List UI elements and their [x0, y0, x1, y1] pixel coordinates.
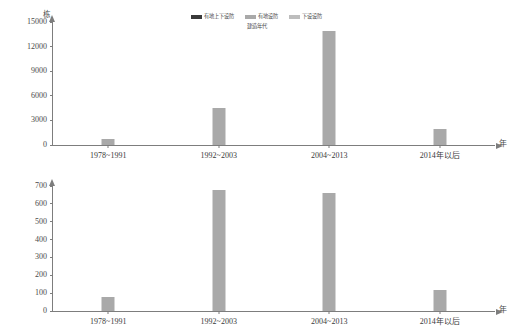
legend-item-2: 下设设防 [289, 13, 322, 20]
legend-label-0: 有地上下设防 [204, 13, 233, 20]
y-tick-label: 600 [35, 198, 47, 209]
x-tick-label: 1992~2003 [201, 316, 237, 327]
bar-bottom-2[interactable] [323, 193, 336, 311]
bar-top-2[interactable] [323, 31, 336, 145]
category-slot-1-bottom: 1992~2003 [164, 186, 275, 311]
y-tick-label: 500 [35, 216, 47, 227]
bar-bottom-0[interactable] [102, 297, 115, 311]
x-tick-label: 2004~2013 [311, 316, 347, 327]
category-slot-3-top: 2014年以后 [385, 22, 496, 145]
figure-page: 栋 有地上下设防 有地设防 下设设防 建造年代 15000 [0, 0, 513, 334]
category-slot-0-top: 1978~1991 [53, 22, 164, 145]
chart-building-area: ×104m2 有地上下设防 有地设防 下设设防 建造年代 700 [0, 166, 513, 334]
y-tick-label: 0 [43, 305, 47, 316]
category-slot-0-bottom: 1978~1991 [53, 186, 164, 311]
plot-area-top: 15000 12000 9000 6000 3000 0 [52, 22, 495, 146]
x-tick-mark [329, 311, 330, 314]
bar-top-3[interactable] [433, 129, 446, 145]
x-tick-label: 2014年以后 [420, 150, 460, 161]
y-tick-label: 3000 [31, 114, 47, 125]
legend-item-1: 有地设防 [245, 13, 278, 20]
plot-area-bottom: 700 600 500 400 300 200 [52, 186, 495, 312]
y-tick-label: 0 [43, 139, 47, 150]
x-axis-unit-bottom: 年 [499, 305, 507, 315]
x-tick-mark [218, 311, 219, 314]
y-tick-label: 9000 [31, 65, 47, 76]
bars-bottom: 1978~1991 1992~2003 2004~2013 2014年以后 [53, 186, 495, 311]
x-tick-mark [439, 145, 440, 148]
y-tick-label: 400 [35, 234, 47, 245]
chart-building-count: 栋 有地上下设防 有地设防 下设设防 建造年代 15000 [0, 0, 513, 168]
bar-bottom-3[interactable] [433, 290, 446, 311]
y-tick-label: 6000 [31, 90, 47, 101]
x-tick-mark [108, 145, 109, 148]
y-tick-label: 15000 [27, 16, 47, 27]
x-tick-label: 1992~2003 [201, 150, 237, 161]
x-tick-mark [218, 145, 219, 148]
x-tick-label: 1978~1991 [90, 316, 126, 327]
legend-item-0: 有地上下设防 [191, 13, 233, 20]
legend-label-2: 下设设防 [302, 13, 322, 20]
category-slot-2-bottom: 2004~2013 [274, 186, 385, 311]
category-slot-2-top: 2004~2013 [274, 22, 385, 145]
legend-swatch-icon-1 [245, 15, 256, 20]
x-tick-label: 1978~1991 [90, 150, 126, 161]
x-tick-label: 2004~2013 [311, 150, 347, 161]
x-axis-unit-top: 年 [499, 139, 507, 149]
legend-items-top: 有地上下设防 有地设防 下设设防 [186, 13, 326, 20]
legend-swatch-icon-0 [191, 15, 202, 20]
x-tick-label: 2014年以后 [420, 316, 460, 327]
bar-bottom-1[interactable] [212, 190, 225, 311]
bar-top-1[interactable] [212, 108, 225, 145]
bars-top: 1978~1991 1992~2003 2004~2013 2014年以后 [53, 22, 495, 145]
category-slot-1-top: 1992~2003 [164, 22, 275, 145]
legend-swatch-icon-2 [289, 15, 300, 20]
y-tick-label: 12000 [27, 41, 47, 52]
y-tick-label: 700 [35, 180, 47, 191]
x-tick-mark [329, 145, 330, 148]
category-slot-3-bottom: 2014年以后 [385, 186, 496, 311]
x-tick-mark [108, 311, 109, 314]
x-tick-mark [439, 311, 440, 314]
legend-label-1: 有地设防 [258, 13, 278, 20]
y-tick-label: 300 [35, 251, 47, 262]
y-tick-label: 100 [35, 287, 47, 298]
y-tick-label: 200 [35, 269, 47, 280]
